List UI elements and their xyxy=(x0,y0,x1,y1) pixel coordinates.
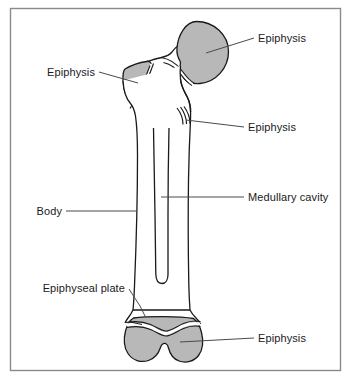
label-epiphyseal-plate: Epiphyseal plate xyxy=(43,282,125,294)
label-epiphysis-lesser-trochanter: Epiphysis xyxy=(248,121,296,133)
label-epiphysis-distal: Epiphysis xyxy=(258,332,306,344)
label-body: Body xyxy=(37,205,63,217)
label-epiphysis-greater-trochanter: Epiphysis xyxy=(47,66,95,78)
medullary-cavity xyxy=(154,128,170,284)
label-epiphysis-head: Epiphysis xyxy=(258,32,306,44)
label-medullary-cavity: Medullary cavity xyxy=(248,191,329,203)
bone-diagram-canvas: Epiphysis Epiphysis Epiphysis Medullary … xyxy=(0,0,351,382)
bone-diagram-figure: Epiphysis Epiphysis Epiphysis Medullary … xyxy=(0,0,351,382)
